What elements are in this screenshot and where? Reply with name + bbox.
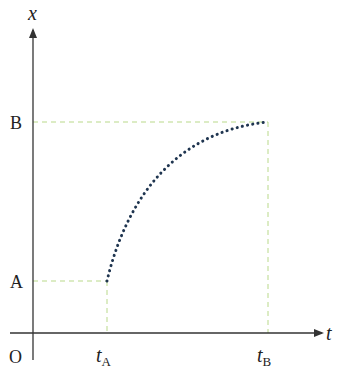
- position-time-graph: x t O B A tA tB: [0, 0, 346, 385]
- position-curve: [107, 122, 268, 281]
- x-tick-tb: tB: [257, 344, 272, 369]
- guide-lines: [33, 122, 268, 333]
- y-axis-label: x: [27, 2, 37, 24]
- y-tick-b: B: [10, 113, 22, 133]
- x-tick-tb-sub: B: [263, 354, 272, 369]
- origin-label: O: [9, 347, 22, 367]
- x-tick-ta-sub: A: [102, 354, 112, 369]
- x-tick-ta: tA: [96, 344, 112, 369]
- x-axis-label: t: [326, 322, 332, 344]
- y-tick-a: A: [10, 272, 23, 292]
